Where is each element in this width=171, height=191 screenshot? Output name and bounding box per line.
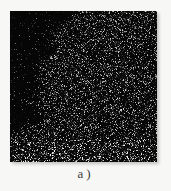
micrograph-image xyxy=(10,11,157,162)
figure-panel: a) xyxy=(0,0,171,191)
noise-map-canvas xyxy=(10,11,157,162)
figure-caption-label: a) xyxy=(0,166,171,181)
